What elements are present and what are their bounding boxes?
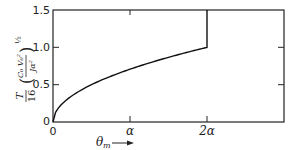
svg-text:T: T <box>14 91 25 99</box>
svg-text:½: ½ <box>14 36 23 44</box>
x-tick-alpha: α <box>126 124 134 138</box>
chart: 0 0.5 1.0 1.5 0 α 2α θ m T 16 ( C₀ V₀² J… <box>0 0 291 150</box>
data-curve <box>53 10 207 122</box>
y-tick-1-5: 1.5 <box>33 4 51 17</box>
x-tick-2alpha: 2α <box>198 124 215 138</box>
x-tick-0: 0 <box>50 125 57 138</box>
svg-text:Jα²: Jα² <box>28 60 37 74</box>
y-ticks-right <box>278 47 284 84</box>
svg-text:): ) <box>17 47 36 53</box>
plot-frame <box>53 10 284 122</box>
y-ticks <box>53 47 59 84</box>
svg-text:16: 16 <box>26 90 37 103</box>
svg-text:m: m <box>103 141 111 150</box>
svg-text:C₀ V₀²: C₀ V₀² <box>16 54 25 78</box>
